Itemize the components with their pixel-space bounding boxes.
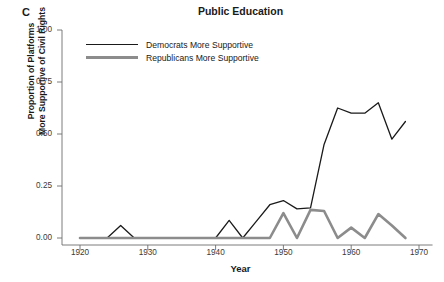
legend-line-swatch — [86, 56, 138, 59]
y-tick-label: 0.25 — [20, 181, 52, 190]
legend-label: Republicans More Supportive — [146, 53, 259, 63]
x-tick-label: 1950 — [263, 248, 303, 257]
legend-line-glyph — [86, 44, 138, 45]
legend-label: Democrats More Supportive — [146, 40, 253, 50]
y-tick-label: 0.75 — [20, 77, 52, 86]
legend-line-swatch — [86, 44, 138, 45]
chart-title: Public Education — [62, 5, 419, 17]
x-tick-label: 1940 — [196, 248, 236, 257]
chart-legend: Democrats More SupportiveRepublicans Mor… — [86, 38, 259, 64]
series-lines — [80, 103, 405, 238]
x-tick-label: 1960 — [331, 248, 371, 257]
y-tick-label: 1.00 — [20, 25, 52, 34]
legend-item: Republicans More Supportive — [86, 51, 259, 64]
y-tick-label: 0.00 — [20, 233, 52, 242]
chart-figure: C Public Education Proportion of Platfor… — [0, 0, 444, 282]
x-axis-label: Year — [62, 263, 419, 274]
series-line — [80, 103, 405, 238]
legend-item: Democrats More Supportive — [86, 38, 259, 51]
y-tick-label: 0.50 — [20, 129, 52, 138]
legend-line-glyph — [86, 56, 138, 59]
x-tick-label: 1930 — [128, 248, 168, 257]
x-tick-label: 1920 — [60, 248, 100, 257]
x-tick-label: 1970 — [399, 248, 439, 257]
